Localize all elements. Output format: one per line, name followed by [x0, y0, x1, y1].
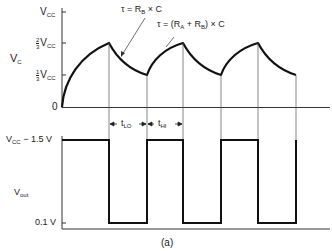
tick-label-vcc: VCC [40, 7, 55, 18]
tick-label-zero: 0 [52, 102, 58, 112]
tick-label-high: VCC − 1.5 V [6, 135, 52, 145]
vc-waveform [62, 43, 296, 107]
tau-charge-label: τ = (RA + RB) × C [157, 20, 225, 30]
diagram: VCC 23VCC 13VCC 0 VC τ = RB × C τ = (RA … [0, 0, 332, 251]
figure-caption: (a) [161, 238, 173, 248]
tau-discharge-pointer [122, 18, 145, 55]
tau-discharge-label: τ = RB × C [121, 5, 162, 15]
tau-charge-pointer [166, 37, 174, 47]
t-hi-label: tHI [158, 119, 167, 129]
vout-axis-label: Vout [14, 188, 28, 198]
vc-axis-label: VC [10, 53, 22, 65]
tick-label-low: 0.1 V [35, 218, 56, 227]
tick-label-two-thirds: 23VCC [36, 37, 56, 50]
tick-label-one-third: 13VCC [36, 69, 56, 82]
t-lo-label: tLO [121, 119, 132, 129]
tau-discharge-arrowhead [121, 51, 125, 57]
vout-waveform [62, 140, 296, 223]
